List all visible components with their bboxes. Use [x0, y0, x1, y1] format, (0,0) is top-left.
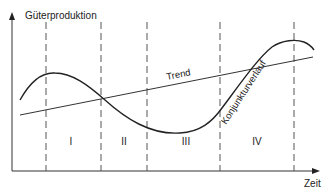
phase-label-3: III	[182, 136, 190, 147]
y-axis-label: Güterproduktion	[25, 10, 97, 21]
phase-boundaries	[46, 22, 294, 171]
axes	[12, 18, 314, 171]
cycle-curve	[20, 40, 314, 133]
phase-label-2: II	[121, 136, 127, 147]
cycle-label: Konjunkturverlauf	[218, 58, 268, 126]
business-cycle-diagram: Güterproduktion Zeit Trend Konjunkturver…	[0, 0, 325, 192]
trend-line	[20, 57, 313, 115]
phase-label-4: IV	[252, 136, 262, 147]
trend-label: Trend	[165, 66, 191, 81]
x-axis-label: Zeit	[304, 178, 321, 189]
phase-label-1: I	[70, 136, 73, 147]
y-axis-arrow-icon	[9, 12, 15, 20]
x-axis-arrow-icon	[312, 168, 320, 174]
